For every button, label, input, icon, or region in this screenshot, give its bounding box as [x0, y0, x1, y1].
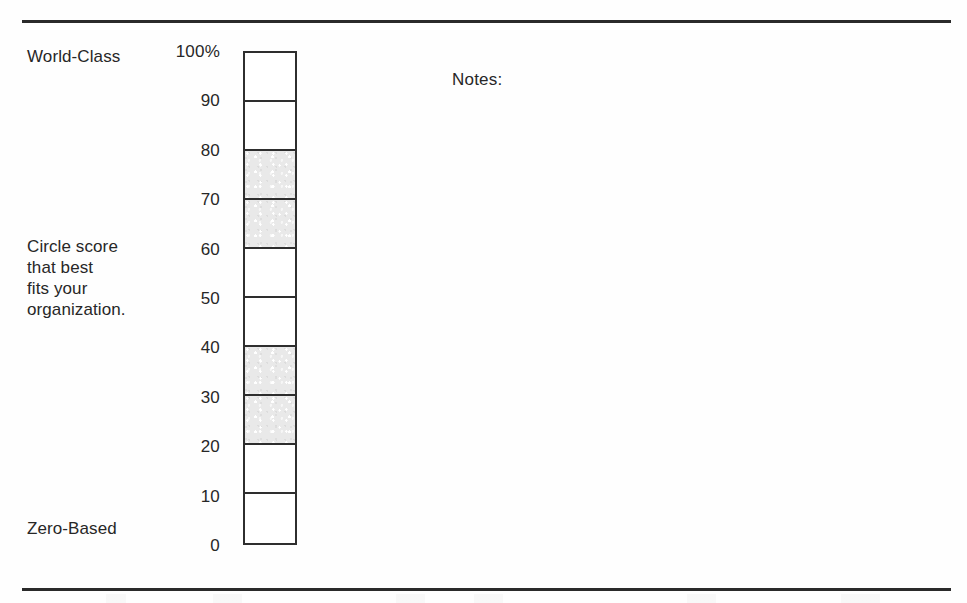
bottom-divider-rule — [22, 588, 951, 591]
scale-cell-80-90[interactable] — [245, 102, 295, 151]
scale-bottom-anchor-label: Zero-Based — [27, 518, 117, 539]
scale-cell-90-100[interactable] — [245, 53, 295, 102]
scale-cell-20-30[interactable] — [245, 396, 295, 445]
scale-cell-60-70[interactable] — [245, 200, 295, 249]
scan-artifact — [0, 594, 967, 603]
notes-label: Notes: — [452, 70, 502, 90]
worksheet-page: World-Class Circle score that best fits … — [0, 0, 967, 603]
scale-tick-10: 10 — [120, 488, 220, 505]
scale-cell-30-40[interactable] — [245, 347, 295, 396]
scale-tick-30: 30 — [120, 389, 220, 406]
scale-cell-50-60[interactable] — [245, 249, 295, 298]
scale-tick-70: 70 — [120, 191, 220, 208]
scale-tick-0: 0 — [120, 537, 220, 554]
scale-instruction-label: Circle score that best fits your organiz… — [27, 236, 126, 320]
rating-scale-column[interactable] — [243, 51, 297, 545]
scale-tick-20: 20 — [120, 438, 220, 455]
scale-top-anchor-label: World-Class — [27, 46, 120, 67]
scale-tick-80: 80 — [120, 142, 220, 159]
scale-tick-60: 60 — [120, 241, 220, 258]
scale-cell-10-20[interactable] — [245, 445, 295, 494]
top-divider-rule — [22, 20, 951, 23]
scale-tick-column: 100%9080706050403020100 — [120, 51, 220, 545]
scale-cell-70-80[interactable] — [245, 151, 295, 200]
scale-tick-100pct: 100% — [120, 43, 220, 60]
scale-cell-0-10[interactable] — [245, 494, 295, 543]
scale-tick-90: 90 — [120, 92, 220, 109]
scale-cell-40-50[interactable] — [245, 298, 295, 347]
scale-tick-50: 50 — [120, 290, 220, 307]
scale-tick-40: 40 — [120, 339, 220, 356]
